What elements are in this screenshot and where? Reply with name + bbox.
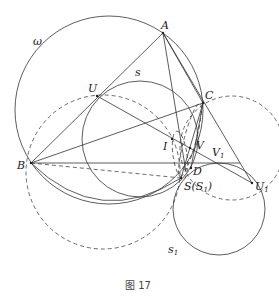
label-B: B — [16, 159, 25, 172]
line-B-S-dashed — [31, 163, 181, 178]
line-A-B — [31, 33, 163, 163]
circle-dashed-left — [26, 95, 180, 249]
geometry-diagram: A B C U I V D S(S1) V1 U1 ω s s1 图 17 — [0, 0, 279, 297]
circle-omega — [15, 16, 203, 204]
label-s: s — [135, 66, 141, 79]
line-A-U1 — [163, 33, 252, 183]
label-D: D — [192, 165, 202, 178]
line-U-U1 — [97, 96, 252, 183]
label-s1: s1 — [168, 243, 178, 257]
label-omega: ω — [33, 35, 42, 48]
label-C: C — [205, 89, 214, 102]
label-V1: V1 — [212, 146, 224, 160]
label-I: I — [162, 140, 168, 153]
label-V: V — [196, 139, 205, 152]
figure-caption: 图 17 — [125, 280, 151, 291]
arc-B-S — [31, 163, 181, 201]
label-A: A — [160, 19, 169, 32]
label-U: U — [88, 82, 98, 95]
circle-s1 — [173, 163, 265, 255]
label-S: S(S1) — [184, 180, 212, 194]
line-B-C — [31, 103, 203, 163]
label-U1: U1 — [255, 180, 269, 194]
